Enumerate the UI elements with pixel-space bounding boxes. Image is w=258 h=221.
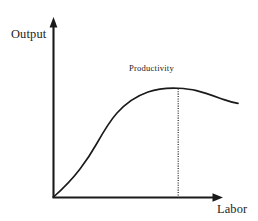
x-axis-arrowhead bbox=[213, 193, 224, 201]
y-axis-arrowhead bbox=[50, 17, 58, 28]
y-axis-label: Output bbox=[11, 28, 46, 40]
production-function-curve bbox=[54, 88, 239, 197]
productivity-annotation-label: Productivity bbox=[129, 64, 174, 73]
x-axis-label: Labor bbox=[217, 203, 247, 215]
production-function-figure: Output Labor Productivity bbox=[0, 0, 258, 221]
